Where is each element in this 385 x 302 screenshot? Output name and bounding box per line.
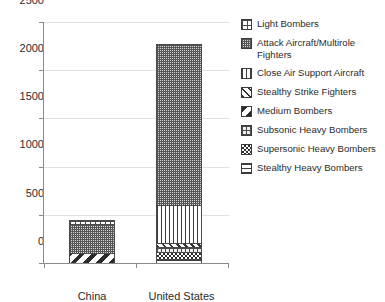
legend-label-light-bombers: Light Bombers (257, 18, 319, 30)
x-tick-right (228, 263, 229, 268)
legend-swatch-attack-aircraft-icon (241, 38, 252, 49)
legend-label-stealthy-strike-fighters: Stealthy Strike Fighters (257, 86, 356, 98)
y-axis-line (43, 22, 44, 263)
legend-label-close-air-support: Close Air Support Aircraft (257, 67, 364, 79)
legend: Light Bombers Attack Aircraft/Multirole … (241, 18, 383, 181)
legend-swatch-subsonic-heavy-bombers-icon (241, 125, 252, 136)
legend-item-stealthy-heavy-bombers[interactable]: Stealthy Heavy Bombers (241, 162, 383, 174)
gridline-2500 (44, 22, 229, 23)
segment-us-attack-aircraft[interactable] (156, 44, 202, 206)
legend-item-attack-aircraft[interactable]: Attack Aircraft/Multirole Fighters (241, 37, 383, 60)
segment-us-close-air-support[interactable] (156, 205, 202, 244)
legend-item-light-bombers[interactable]: Light Bombers (241, 18, 383, 30)
legend-label-supersonic-heavy-bombers: Supersonic Heavy Bombers (257, 143, 376, 155)
legend-item-subsonic-heavy-bombers[interactable]: Subsonic Heavy Bombers (241, 124, 383, 136)
legend-item-medium-bombers[interactable]: Medium Bombers (241, 105, 383, 117)
legend-label-attack-aircraft: Attack Aircraft/Multirole Fighters (257, 37, 383, 60)
x-tick-middle (136, 263, 137, 268)
legend-swatch-light-bombers-icon (241, 19, 252, 30)
y-tick-500 (39, 215, 44, 216)
y-axis-label-500: 500 (8, 188, 44, 199)
legend-swatch-medium-bombers-icon (241, 106, 252, 117)
legend-label-medium-bombers: Medium Bombers (257, 105, 332, 117)
y-tick-2000 (39, 70, 44, 71)
y-axis-label-1500: 1500 (8, 91, 44, 102)
x-tick-left (44, 263, 45, 268)
legend-item-stealthy-strike-fighters[interactable]: Stealthy Strike Fighters (241, 86, 383, 98)
legend-swatch-stealthy-heavy-bombers-icon (241, 163, 252, 174)
y-tick-1000 (39, 167, 44, 168)
legend-item-supersonic-heavy-bombers[interactable]: Supersonic Heavy Bombers (241, 143, 383, 155)
y-axis-label-2000: 2000 (8, 43, 44, 54)
y-axis-label-2500: 2500 (8, 0, 44, 6)
y-axis-label-0: 0 (8, 236, 44, 247)
plot-area: China United States (44, 22, 229, 263)
legend-swatch-close-air-support-icon (241, 68, 252, 79)
segment-china-attack-aircraft[interactable] (69, 224, 115, 254)
legend-swatch-supersonic-heavy-bombers-icon (241, 144, 252, 155)
y-tick-1500 (39, 118, 44, 119)
bar-united-states[interactable] (156, 44, 202, 263)
y-tick-2500 (39, 22, 44, 23)
y-axis-label-1000: 1000 (8, 139, 44, 150)
x-axis-label-united-states: United States (139, 290, 224, 302)
legend-item-close-air-support[interactable]: Close Air Support Aircraft (241, 67, 383, 79)
legend-label-stealthy-heavy-bombers: Stealthy Heavy Bombers (257, 162, 363, 174)
bar-china[interactable] (69, 220, 115, 263)
legend-swatch-stealthy-strike-fighters-icon (241, 87, 252, 98)
x-axis-label-china: China (52, 290, 132, 302)
legend-label-subsonic-heavy-bombers: Subsonic Heavy Bombers (257, 124, 367, 136)
